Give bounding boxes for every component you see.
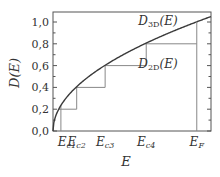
y-tick-label: 1,0	[32, 16, 50, 29]
d2d-label: D2D(E)	[137, 57, 178, 72]
dos-chart: 0,00,20,40,60,81,0 Ec1Ec2Ec3Ec4EF D3D(E)…	[0, 0, 220, 177]
x-tick-label: Ec3	[95, 135, 114, 150]
y-axis-ticks: 0,00,20,40,60,81,0	[32, 16, 212, 138]
x-tick-label: Ec2	[67, 135, 86, 150]
y-tick-label: 0,6	[32, 60, 50, 73]
plot-border	[53, 12, 211, 131]
d3d-label: D3D(E)	[137, 14, 178, 29]
y-tick-label: 0,8	[32, 38, 50, 51]
plot-frame	[53, 12, 211, 131]
y-tick-label: 0,2	[32, 103, 50, 116]
x-axis-tick-labels: Ec1Ec2Ec3Ec4EF	[57, 135, 205, 150]
series-annotations: D3D(E)D2D(E)	[137, 14, 178, 72]
x-tick-label: EF	[189, 135, 205, 150]
y-axis-label: D(E)	[7, 58, 22, 89]
y-tick-label: 0,4	[32, 81, 50, 94]
d3d-curve-series	[53, 17, 211, 131]
x-tick-label: Ec4	[136, 135, 155, 150]
y-tick-label: 0,0	[32, 125, 50, 138]
x-axis-label: E	[120, 154, 131, 169]
